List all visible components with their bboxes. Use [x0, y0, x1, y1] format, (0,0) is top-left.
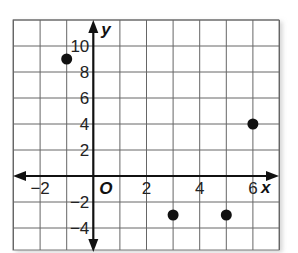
data-point: [61, 54, 72, 65]
y-axis-label: y: [100, 20, 112, 39]
y-tick-label: 2: [80, 141, 89, 160]
x-tick-label: −2: [30, 179, 49, 198]
y-tick-label: −4: [70, 219, 89, 238]
y-tick-label: −2: [70, 193, 89, 212]
coordinate-plane: xyO−2246−4−2246810: [0, 0, 298, 253]
y-tick-label: 10: [70, 37, 89, 56]
data-point: [247, 119, 258, 130]
x-axis-label: x: [260, 178, 272, 197]
x-tick-label: 4: [195, 179, 204, 198]
x-tick-label: 6: [248, 179, 257, 198]
x-tick-label: 2: [142, 179, 151, 198]
y-tick-label: 6: [80, 89, 89, 108]
data-point: [221, 210, 232, 221]
y-tick-label: 8: [80, 63, 89, 82]
y-tick-label: 4: [80, 115, 89, 134]
origin-label: O: [99, 179, 112, 198]
data-point: [168, 210, 179, 221]
